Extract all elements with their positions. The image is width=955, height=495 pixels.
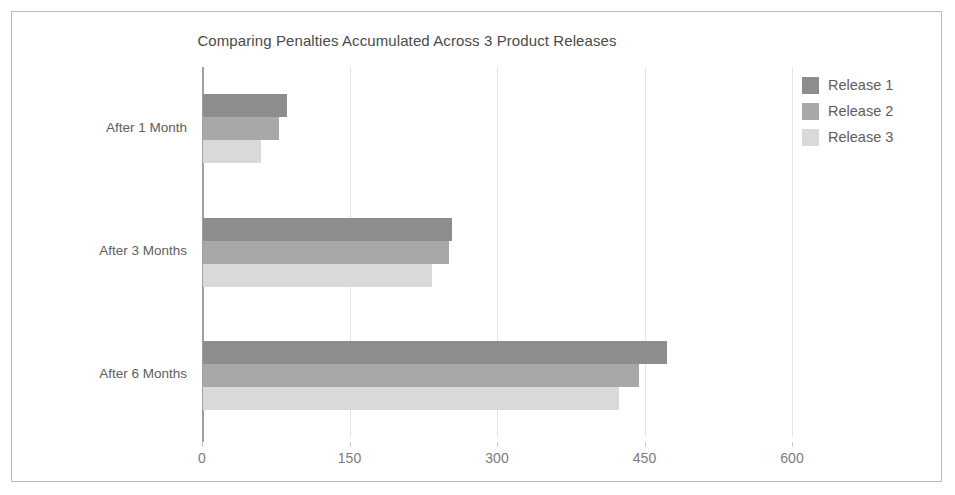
x-axis-tick-mark [792,442,793,447]
chart-frame: Comparing Penalties Accumulated Across 3… [11,11,942,482]
legend-color-swatch [802,77,819,94]
category-label: After 3 Months [99,243,187,258]
x-axis-tick-mark [202,442,203,447]
legend-item[interactable]: Release 2 [802,98,942,124]
category-label: After 1 Month [106,120,187,135]
chart-title: Comparing Penalties Accumulated Across 3… [12,32,802,49]
x-axis-tick-mark [497,442,498,447]
x-axis-tick-label: 0 [172,450,232,466]
plot-area: 0150300450600 [202,67,792,437]
legend-label: Release 2 [828,103,893,119]
x-axis-tick-label: 600 [762,450,822,466]
gridline [792,67,793,437]
bar [203,140,261,163]
legend-color-swatch [802,129,819,146]
legend-color-swatch [802,103,819,120]
gridline [645,67,646,437]
x-axis-tick-label: 300 [467,450,527,466]
chart-legend: Release 1Release 2Release 3 [802,72,942,150]
bar [203,387,619,410]
bar [203,218,452,241]
category-label: After 6 Months [99,366,187,381]
bar [203,117,279,140]
legend-label: Release 3 [828,129,893,145]
bar [203,264,432,287]
x-axis-tick-label: 450 [615,450,675,466]
legend-item[interactable]: Release 3 [802,124,942,150]
bar [203,241,449,264]
x-axis-tick-label: 150 [320,450,380,466]
x-axis-tick-mark [645,442,646,447]
legend-item[interactable]: Release 1 [802,72,942,98]
bar [203,341,667,364]
x-axis-tick-mark [350,442,351,447]
bar [203,364,639,387]
bar [203,94,287,117]
y-axis-category-labels: After 1 MonthAfter 3 MonthsAfter 6 Month… [12,67,187,437]
legend-label: Release 1 [828,77,893,93]
